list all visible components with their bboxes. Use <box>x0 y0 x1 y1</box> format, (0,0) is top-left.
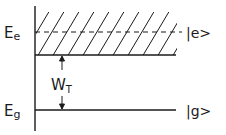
ground-energy-label: Eg <box>4 102 20 121</box>
gap-label: WT <box>51 76 73 95</box>
ground-state-label: |g> <box>186 103 211 120</box>
excited-state-label: |e> <box>186 25 211 42</box>
hatched-band <box>22 10 200 57</box>
energy-level-diagram: Ee Eg WT |e> |g> <box>0 0 226 135</box>
excited-energy-label: Ee <box>4 24 20 43</box>
